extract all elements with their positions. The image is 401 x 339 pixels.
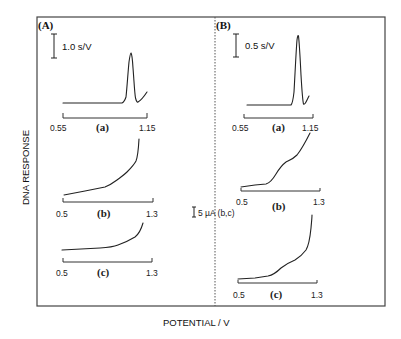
scale-bar-current-label: 5 µA (b,c): [198, 208, 235, 218]
x-end-label: 1.15: [139, 123, 156, 133]
trace-label: (c): [270, 288, 283, 301]
panel-b: (B) 0.5 s/V 0.55 (a) 1.15 0.5 (b) 1.3: [192, 19, 325, 301]
x-range-bar: [63, 113, 147, 118]
trace-label: (b): [97, 207, 111, 220]
figure-frame: [37, 17, 385, 306]
trace-curve: [64, 139, 139, 195]
panel-b-label: (B): [216, 19, 231, 32]
x-start-label: 0.55: [50, 123, 67, 133]
x-start-label: 0.55: [232, 123, 249, 133]
trace-curve: [63, 53, 147, 103]
x-range-bar: [244, 114, 313, 118]
trace-curve: [241, 133, 310, 187]
figure-canvas: DNA RESPONSE POTENTIAL / V (A) 1.0 s/V 0…: [0, 0, 401, 339]
scale-bar-current: 5 µA (b,c): [192, 207, 235, 218]
x-start-label: 0.5: [56, 209, 68, 219]
trace-label: (a): [272, 121, 285, 134]
scale-bar-b: 0.5 s/V: [233, 34, 275, 57]
trace-label: (b): [272, 200, 286, 213]
scale-bar-b-label: 0.5 s/V: [245, 40, 275, 51]
scale-bar-a: 1.0 s/V: [51, 34, 92, 58]
scale-bar-a-label: 1.0 s/V: [62, 41, 92, 52]
x-start-label: 0.5: [233, 290, 245, 300]
y-axis-label: DNA RESPONSE: [20, 130, 31, 205]
trace-a-c: 0.5 (c) 1.3: [56, 223, 158, 279]
trace-a-b: 0.5 (b) 1.3: [56, 139, 158, 220]
trace-b-c: 0.5 (c) 1.3: [233, 215, 323, 301]
trace-curve: [62, 223, 143, 250]
x-range-bar: [63, 258, 152, 262]
x-end-label: 1.3: [313, 197, 325, 207]
x-end-label: 1.15: [302, 123, 319, 133]
trace-b-b: 0.5 (b) 1.3: [236, 133, 325, 213]
x-axis-label: POTENTIAL / V: [163, 317, 230, 328]
trace-label: (c): [97, 266, 110, 279]
trace-label: (a): [96, 121, 109, 134]
trace-curve: [238, 215, 312, 279]
x-range-bar: [63, 198, 153, 202]
panel-a-label: (A): [38, 19, 54, 32]
x-end-label: 1.3: [146, 209, 158, 219]
x-end-label: 1.3: [311, 290, 323, 300]
x-start-label: 0.5: [236, 197, 248, 207]
x-range-bar: [238, 280, 317, 283]
x-range-bar: [241, 188, 320, 191]
x-end-label: 1.3: [146, 268, 158, 278]
trace-a-a: 0.55 (a) 1.15: [50, 53, 156, 134]
panel-a: (A) 1.0 s/V 0.55 (a) 1.15 0.5 (b) 1.3: [38, 19, 158, 279]
x-start-label: 0.5: [56, 268, 68, 278]
